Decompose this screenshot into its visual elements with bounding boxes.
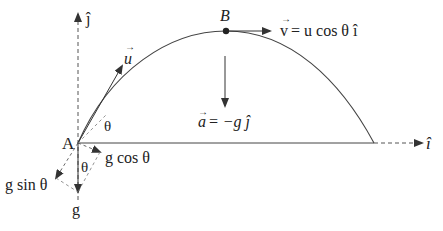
x-unit-label: î: [426, 134, 432, 153]
g-cos-label: g cos θ: [105, 149, 150, 167]
vector-arrow-icon: →: [125, 41, 135, 52]
g-sin-label: g sin θ: [5, 176, 47, 194]
peak-velocity-lhs: v: [280, 22, 288, 39]
peak-point: B: [220, 7, 230, 34]
projectile-diagram: ĵ î u → θ A B v → = u cos θ î a → = −g ĵ: [0, 0, 443, 231]
peak-velocity-vector: v → = u cos θ î: [229, 13, 358, 39]
peak-velocity-rhs: = u cos θ î: [291, 22, 358, 39]
acceleration-vector: a → = −g ĵ: [198, 56, 252, 131]
point-b-label: B: [220, 7, 230, 24]
y-unit-label: ĵ: [85, 10, 91, 28]
gravity-decomposition: g θ g cos θ g sin θ: [5, 143, 150, 219]
launch-angle-label: θ: [104, 118, 111, 134]
gravity-label: g: [72, 201, 80, 219]
gravity-angle-label: θ: [81, 159, 88, 175]
vector-arrow-icon: →: [281, 13, 291, 24]
vector-arrow-icon: →: [198, 106, 208, 117]
acceleration-rhs: = −g ĵ: [208, 113, 252, 131]
initial-velocity-label: u: [124, 50, 132, 67]
parallelogram-side: [56, 178, 78, 192]
g-cos-vector: [78, 143, 100, 152]
